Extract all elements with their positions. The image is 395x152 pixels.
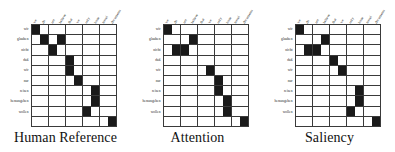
matrix-cell — [83, 96, 91, 105]
row-label: glauben — [264, 34, 294, 44]
matrix-cell — [66, 96, 74, 105]
matrix-cell — [232, 96, 240, 105]
matrix-cell — [57, 25, 65, 34]
matrix-cell — [206, 45, 214, 54]
matrix-cell — [57, 107, 65, 116]
matrix-cell — [189, 76, 197, 85]
matrix-cell — [108, 117, 116, 126]
panel-caption: Saliency — [264, 128, 395, 148]
matrix-cell — [108, 96, 116, 105]
matrix-cell — [108, 25, 116, 34]
matrix-cell — [330, 25, 338, 34]
matrix-cell — [57, 96, 65, 105]
row-label: wir — [132, 65, 162, 75]
row-label: wollen — [0, 106, 30, 116]
matrix-cell — [164, 56, 172, 65]
row-label — [264, 117, 294, 127]
matrix-cell — [40, 45, 48, 54]
matrix-cell — [198, 25, 206, 34]
matrix-cell — [330, 45, 338, 54]
matrix-cell — [198, 117, 206, 126]
matrix-cell — [364, 56, 372, 65]
matrix-cell — [321, 35, 329, 44]
row-label: nur — [132, 75, 162, 85]
matrix-cell — [304, 117, 312, 126]
matrix-cell — [49, 76, 57, 85]
matrix-cell — [338, 56, 346, 65]
matrix-cell — [40, 86, 48, 95]
alignment-matrix[interactable] — [31, 24, 117, 127]
matrix-cell — [91, 56, 99, 65]
matrix-cell — [313, 35, 321, 44]
matrix-cell — [338, 107, 346, 116]
matrix-cell — [364, 25, 372, 34]
matrix-cell — [347, 56, 355, 65]
matrix-cell — [91, 66, 99, 75]
matrix-cell — [181, 86, 189, 95]
matrix-cell — [172, 45, 180, 54]
matrix-cell — [32, 66, 40, 75]
matrix-cell — [206, 66, 214, 75]
matrix-cell — [91, 25, 99, 34]
matrix-cell — [189, 25, 197, 34]
matrix-cell — [206, 56, 214, 65]
matrix-cell — [189, 117, 197, 126]
matrix-cell — [40, 66, 48, 75]
row-labels: wirglaubennichtdaßwirnurreisenherausgebe… — [132, 24, 162, 127]
matrix-cell — [215, 96, 223, 105]
matrix-cell — [364, 86, 372, 95]
matrix-wrapper: wedonotbelievethatweonlyissuetraveldocum… — [264, 0, 395, 128]
matrix-cell — [181, 56, 189, 65]
matrix-cell — [355, 117, 363, 126]
matrix-cell — [49, 117, 57, 126]
matrix-cell — [74, 107, 82, 116]
matrix-cell — [172, 86, 180, 95]
matrix-cell — [83, 76, 91, 85]
matrix-cell — [364, 35, 372, 44]
matrix-cell — [83, 25, 91, 34]
matrix-cell — [223, 45, 231, 54]
alignment-matrix[interactable] — [163, 24, 249, 127]
matrix-cell — [215, 117, 223, 126]
matrix-cell — [330, 107, 338, 116]
matrix-cell — [108, 35, 116, 44]
matrix-cell — [364, 107, 372, 116]
column-headers: wedonotbelievethatweonlyissuetraveldocum… — [163, 0, 249, 24]
matrix-cell — [83, 56, 91, 65]
matrix-cell — [74, 86, 82, 95]
matrix-cell — [206, 96, 214, 105]
matrix-cell — [206, 86, 214, 95]
alignment-matrix[interactable] — [295, 24, 381, 127]
matrix-cell — [74, 66, 82, 75]
matrix-cell — [206, 35, 214, 44]
column-label: documents — [243, 10, 254, 25]
matrix-cell — [347, 117, 355, 126]
row-label: wir — [0, 65, 30, 75]
panel-attention: wedonotbelievethatweonlyissuetraveldocum… — [132, 0, 263, 152]
matrix-cell — [181, 107, 189, 116]
matrix-cell — [304, 25, 312, 34]
matrix-cell — [240, 45, 248, 54]
matrix-cell — [198, 86, 206, 95]
matrix-cell — [296, 45, 304, 54]
matrix-cell — [189, 96, 197, 105]
matrix-cell — [330, 76, 338, 85]
matrix-cell — [330, 35, 338, 44]
matrix-cell — [100, 107, 108, 116]
matrix-cell — [355, 35, 363, 44]
matrix-cell — [240, 86, 248, 95]
matrix-cell — [215, 25, 223, 34]
matrix-cell — [74, 117, 82, 126]
matrix-cell — [198, 96, 206, 105]
row-labels: wirglaubennichtdaßwirnurreisenherausgebe… — [0, 24, 30, 127]
column-label: documents — [111, 10, 122, 25]
row-label: wir — [264, 65, 294, 75]
matrix-cell — [108, 76, 116, 85]
row-label: nicht — [264, 45, 294, 55]
matrix-cell — [223, 107, 231, 116]
matrix-cell — [57, 35, 65, 44]
matrix-cell — [304, 35, 312, 44]
matrix-cell — [198, 45, 206, 54]
matrix-cell — [74, 45, 82, 54]
matrix-cell — [240, 76, 248, 85]
